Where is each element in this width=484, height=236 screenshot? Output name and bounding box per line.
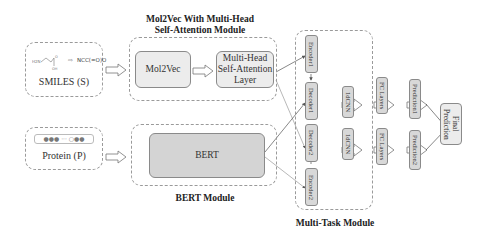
protein-input-group: ●●● ··· ○●● Protein (P) (25, 127, 103, 170)
fc-layers1-block: FC Layers (376, 77, 388, 114)
prediction2-block: Prediction2 (409, 130, 421, 170)
smiles-string: NCC(=O)O (77, 57, 106, 63)
multi-head-attention-block: Multi-Head Self-Attention Layer (216, 51, 274, 88)
decoder1-block: Decoder1 (305, 82, 318, 120)
cnn1-block: 1dCNN (342, 86, 354, 118)
encoder2-block: Encoder2 (305, 168, 318, 206)
protein-sequence-glyph: ●●● ··· ○●● (34, 134, 94, 144)
smiles-label: SMILES (S) (26, 76, 102, 87)
fc-layers2-block: FC Layers (376, 128, 388, 165)
bert-module-title: BERT Module (160, 193, 250, 204)
final-prediction-block: Final Prediction (440, 103, 462, 145)
smiles-input-group: H2N O OH ⇨ NCC(=O)O SMILES (S) (25, 42, 103, 97)
protein-label: Protein (P) (26, 150, 102, 161)
cnn2-block: 1dCNN (342, 128, 354, 160)
arrow-smiles-to-mol2vec (106, 64, 126, 76)
mol2vec-block: Mol2Vec (135, 51, 191, 88)
bert-block: BERT (149, 133, 265, 178)
svg-text:O: O (55, 55, 58, 59)
mol2vec-module-title: Mol2Vec With Multi-Head Self-Attention M… (130, 14, 270, 36)
encoder1-block: Encoder1 (305, 35, 318, 73)
svg-text:H2N: H2N (32, 59, 41, 64)
multitask-module-title: Multi-Task Module (285, 218, 385, 229)
decoder2-block: Decoder2 (305, 124, 318, 162)
small-arrow-icon: ⇨ (68, 56, 73, 63)
molecule-sketch-icon: H2N O OH (32, 53, 66, 71)
prediction1-block: Prediction1 (409, 79, 421, 119)
svg-text:OH: OH (52, 67, 58, 71)
arrow-protein-to-bert (106, 151, 126, 163)
